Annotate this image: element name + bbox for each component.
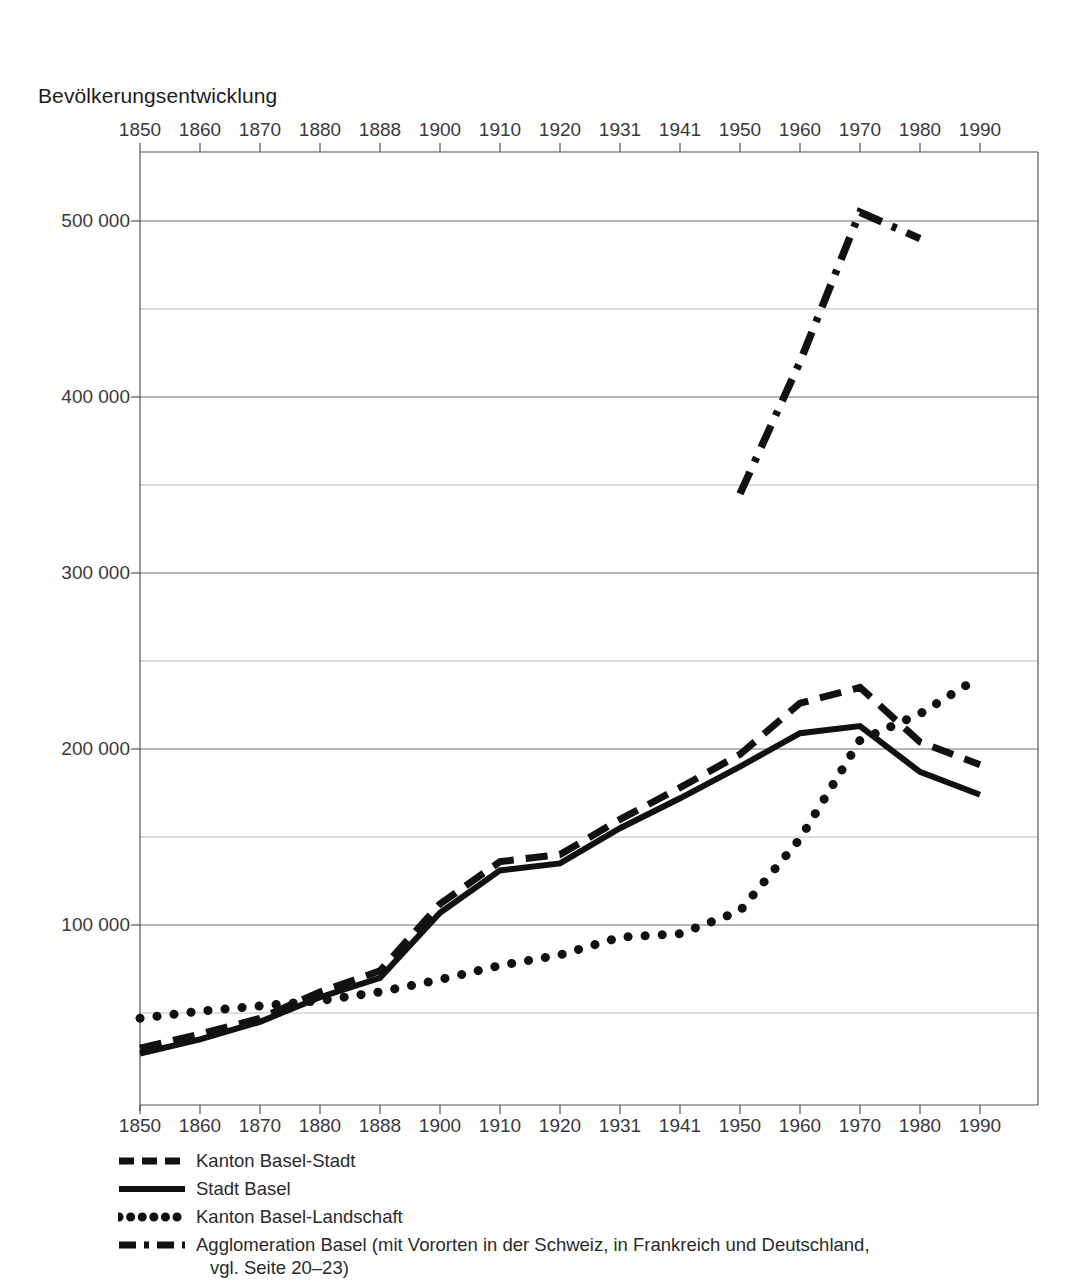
- legend-item[interactable]: Stadt Basel: [118, 1176, 1038, 1202]
- legend-swatch-dashdot-icon: [118, 1232, 186, 1256]
- legend-item[interactable]: Kanton Basel-Landschaft: [118, 1204, 1038, 1230]
- legend-label: Kanton Basel-Stadt: [196, 1148, 355, 1172]
- legend-item[interactable]: Agglomeration Basel (mit Vororten in der…: [118, 1232, 1038, 1279]
- legend-swatch-dotted-icon: [118, 1204, 186, 1228]
- legend-item[interactable]: Kanton Basel-Stadt: [118, 1148, 1038, 1174]
- plot-area: [0, 0, 1080, 1283]
- series-line-1: [140, 726, 980, 1053]
- legend-label-line2: vgl. Seite 20–23): [196, 1256, 870, 1279]
- legend-label: Agglomeration Basel (mit Vororten in der…: [196, 1232, 870, 1279]
- legend-label: Kanton Basel-Landschaft: [196, 1204, 403, 1228]
- series-line-0: [140, 687, 980, 1048]
- legend-swatch-solid-icon: [118, 1176, 186, 1200]
- chart-page: Bevölkerungsentwicklung 1850186018701880…: [0, 0, 1080, 1283]
- chart-legend: Kanton Basel-StadtStadt BaselKanton Base…: [118, 1148, 1038, 1281]
- legend-swatch-dashed-icon: [118, 1148, 186, 1172]
- legend-label: Stadt Basel: [196, 1176, 291, 1200]
- series-line-3: [740, 212, 920, 494]
